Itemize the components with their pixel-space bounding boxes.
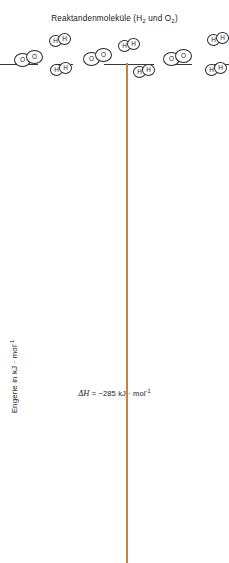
delta-h-value: −285 kJ · mol: [98, 389, 145, 398]
figure-title-prefix: Reaktandenmoleküle (H: [51, 14, 142, 23]
figure-title-sub-o2: 2: [171, 17, 175, 24]
figure-title-sub-h2: 2: [142, 17, 146, 24]
atom-hydrogen: H: [214, 62, 227, 74]
figure-title-middle: und O: [146, 14, 171, 23]
atom-hydrogen: H: [127, 38, 140, 50]
y-axis-label-exponent: -1: [9, 340, 15, 346]
delta-h-exponent: -1: [146, 388, 151, 394]
atom-hydrogen: H: [216, 32, 229, 44]
enthalpy-diagram: Reaktandenmoleküle (H2 und O2) Engerie i…: [0, 0, 229, 563]
delta-h-symbol: ΔH: [78, 389, 89, 398]
delta-h-annotation: ΔH = −285 kJ · mol-1: [0, 389, 229, 398]
y-axis-label: Engerie in kJ · mol-1: [10, 307, 19, 447]
atom-hydrogen: H: [59, 62, 72, 74]
figure-title-suffix: ): [175, 14, 178, 23]
energy-drop-line: [126, 63, 128, 563]
atom-oxygen: O: [26, 50, 43, 64]
figure-title: Reaktandenmoleküle (H2 und O2): [0, 14, 229, 23]
y-axis-label-text: Engerie in kJ · mol: [10, 345, 19, 413]
atom-oxygen: O: [175, 49, 192, 63]
atom-oxygen: O: [95, 48, 112, 62]
atom-hydrogen: H: [142, 64, 155, 76]
atom-hydrogen: H: [58, 33, 71, 45]
